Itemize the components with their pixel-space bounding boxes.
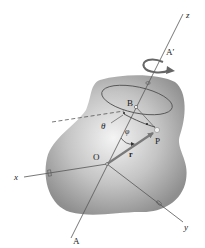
label-B: B	[127, 98, 133, 108]
origin-O	[106, 163, 109, 166]
point-B	[134, 105, 137, 108]
label-theta: θ	[101, 121, 106, 131]
label-r: r	[129, 150, 133, 159]
label-A: A	[73, 236, 80, 246]
label-O: O	[93, 152, 100, 162]
label-A-prime: A′	[166, 47, 174, 57]
rotation-arrowhead-icon	[166, 66, 175, 74]
label-y: y	[183, 222, 188, 232]
label-z: z	[185, 10, 190, 20]
theta-arc-start-dot	[123, 112, 125, 114]
rigid-body-rotation-diagram: z A′ B θ φ P O r x y A	[0, 0, 205, 248]
label-phi: φ	[125, 127, 130, 136]
theta-arc-end-dot	[146, 123, 148, 125]
rigid-body-shape	[46, 75, 187, 214]
label-x: x	[13, 172, 18, 182]
point-P	[154, 127, 159, 132]
label-P: P	[155, 136, 160, 146]
